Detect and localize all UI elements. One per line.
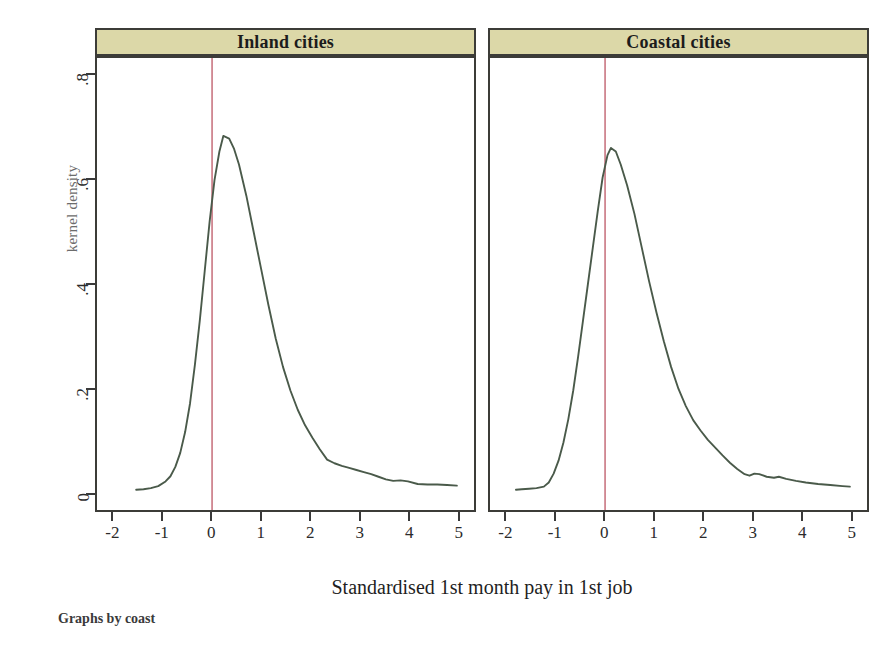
x-tick-label: -1 [548,523,562,543]
panel-header-coastal: Coastal cities [488,28,869,56]
panel-container: Inland cities -2-1012345 Coastal cities … [95,28,869,540]
x-tick-mark [603,512,605,521]
y-tick-mark [86,73,95,75]
plot-area-coastal [488,56,869,512]
x-tick-mark [111,512,113,521]
x-tick-label: 5 [454,523,463,543]
panel-title-inland: Inland cities [237,32,334,53]
x-tick-mark [554,512,556,521]
density-plot-inland [97,58,474,510]
x-tick-label: -1 [155,523,169,543]
panel-inland: Inland cities -2-1012345 [95,28,476,540]
x-tick-label: 4 [405,523,414,543]
x-tick-label: 0 [207,523,216,543]
x-tick-mark [851,512,853,521]
y-tick-mark [86,388,95,390]
x-tick-label: 4 [798,523,807,543]
density-curve [516,148,850,490]
kernel-density-figure: kernel density 0.2.4.6.8 Inland cities -… [0,0,889,651]
x-tick-mark [359,512,361,521]
x-tick-label: 0 [600,523,609,543]
density-curve [136,136,457,490]
x-tick-label: -2 [498,523,512,543]
x-tick-mark [702,512,704,521]
x-tick-mark [260,512,262,521]
x-tick-mark [458,512,460,521]
x-tick-label: 2 [306,523,315,543]
y-tick-mark [86,178,95,180]
figure-footnote: Graphs by coast [58,611,155,627]
panel-title-coastal: Coastal cities [626,32,730,53]
x-tick-label: 1 [257,523,266,543]
y-tick-mark [86,493,95,495]
x-tick-label: -2 [105,523,119,543]
x-tick-mark [801,512,803,521]
x-tick-mark [210,512,212,521]
x-tick-label: 5 [847,523,856,543]
x-tick-mark [653,512,655,521]
x-tick-label: 1 [650,523,659,543]
x-tick-label: 3 [748,523,757,543]
x-tick-mark [309,512,311,521]
y-tick-mark [86,283,95,285]
y-axis: 0.2.4.6.8 [0,0,95,651]
density-plot-coastal [490,58,867,510]
x-tick-label: 2 [699,523,708,543]
plot-area-inland [95,56,476,512]
x-axis-title: Standardised 1st month pay in 1st job [95,576,869,599]
x-axis-coastal: -2-1012345 [488,512,869,556]
panel-coastal: Coastal cities -2-1012345 [488,28,869,540]
x-tick-label: 3 [355,523,364,543]
x-tick-mark [504,512,506,521]
x-axis-inland: -2-1012345 [95,512,476,556]
x-tick-mark [408,512,410,521]
x-tick-mark [161,512,163,521]
panel-header-inland: Inland cities [95,28,476,56]
x-tick-mark [752,512,754,521]
